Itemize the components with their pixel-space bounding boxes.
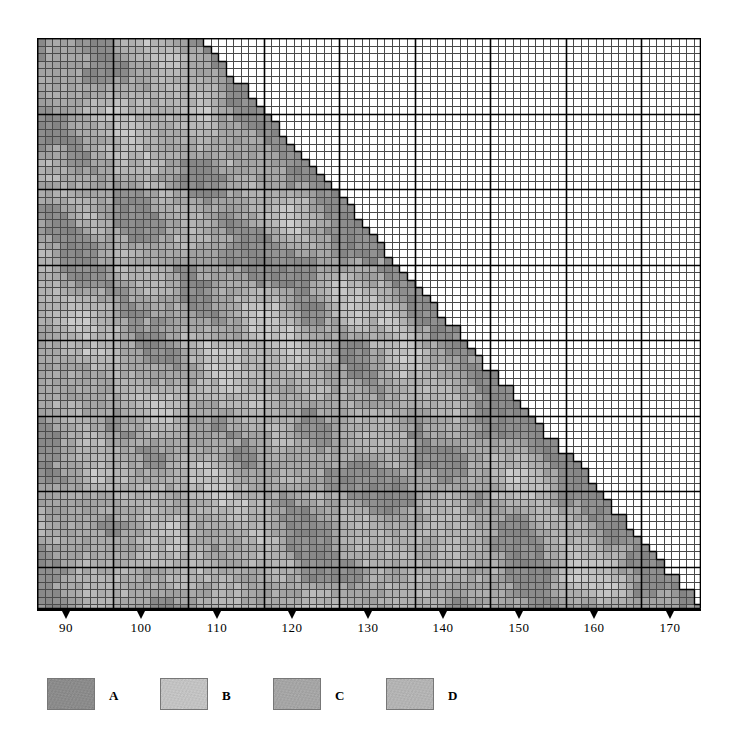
x-axis-tick-label: 130	[338, 620, 398, 636]
x-axis-tick-mark	[213, 611, 221, 619]
x-axis-tick-mark	[288, 611, 296, 619]
x-axis-tick-mark	[439, 611, 447, 619]
x-axis-tick-mark	[515, 611, 523, 619]
x-axis-tick-label: 90	[36, 620, 96, 636]
x-axis-tick-label: 110	[187, 620, 247, 636]
figure-root: 90100110120130140150160170 ABCD	[0, 0, 740, 749]
x-axis-tick-label: 100	[111, 620, 171, 636]
matrix-heatmap-canvas[interactable]	[37, 38, 701, 609]
legend-swatch-c	[273, 678, 321, 710]
x-axis-tick-label: 140	[413, 620, 473, 636]
legend-label-a: A	[109, 688, 118, 704]
x-axis-tick-mark	[666, 611, 674, 619]
legend-swatch-d	[386, 678, 434, 710]
legend-swatch-b	[160, 678, 208, 710]
x-axis-tick-mark	[62, 611, 70, 619]
x-axis-tick-label: 170	[640, 620, 700, 636]
x-axis-tick-mark	[364, 611, 372, 619]
x-axis-tick-label: 120	[262, 620, 322, 636]
legend-label-c: C	[335, 688, 344, 704]
legend-swatch-a	[47, 678, 95, 710]
x-axis-tick-label: 150	[489, 620, 549, 636]
legend-label-b: B	[222, 688, 231, 704]
x-axis-tick-label: 160	[564, 620, 624, 636]
x-axis-tick-mark	[590, 611, 598, 619]
legend-label-d: D	[448, 688, 457, 704]
x-axis-tick-mark	[137, 611, 145, 619]
matrix-plot-panel[interactable]	[37, 38, 701, 609]
